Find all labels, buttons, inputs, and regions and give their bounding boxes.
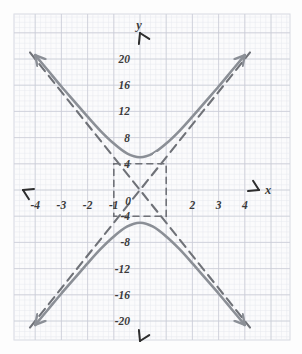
x-tick-label-2: -2 <box>83 199 93 211</box>
y-tick-label-9: -20 <box>115 315 131 327</box>
x-tick-label-1: -3 <box>57 199 67 211</box>
graph-figure: -4-3-2-123420161284-4-8-12-16-200xy <box>0 0 302 354</box>
y-tick-label-5: -4 <box>120 210 130 222</box>
y-tick-label-8: -16 <box>115 289 131 301</box>
y-tick-label-6: -8 <box>120 236 130 248</box>
y-tick-label-7: -12 <box>115 263 131 275</box>
x-tick-label-7: 4 <box>241 199 248 211</box>
x-tick-label-5: 2 <box>189 199 196 211</box>
graph-paper-sheet <box>14 14 290 340</box>
x-tick-label-6: 3 <box>215 199 222 211</box>
y-tick-label-1: 16 <box>119 79 131 91</box>
y-axis-label: y <box>134 18 142 32</box>
y-tick-label-4: 4 <box>123 158 130 170</box>
x-tick-label-0: -4 <box>30 199 40 211</box>
y-tick-label-3: 8 <box>124 132 130 144</box>
y-tick-label-2: 12 <box>119 105 131 117</box>
hyperbola-graph-svg: -4-3-2-123420161284-4-8-12-16-200xy <box>0 0 302 354</box>
x-tick-label-3: -1 <box>109 199 119 211</box>
x-axis-label: x <box>264 183 271 197</box>
origin-label: 0 <box>125 195 131 207</box>
y-tick-label-0: 20 <box>118 53 131 65</box>
